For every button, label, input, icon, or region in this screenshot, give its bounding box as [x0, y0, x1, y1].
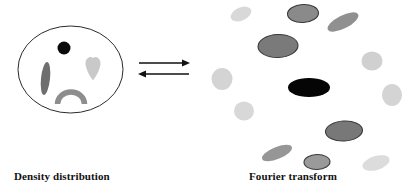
spot-light-left-2 [234, 102, 254, 121]
spot-light-left-1 [212, 68, 233, 90]
spot-large-dark [258, 34, 299, 58]
diagram-canvas [0, 0, 418, 193]
spot-light-right-1 [362, 52, 383, 71]
spot-dark-lr [325, 120, 363, 142]
reversible-transform-arrows [138, 59, 190, 77]
arrow-left-head [138, 70, 146, 77]
spot-mid-bottom [304, 154, 331, 170]
fourier-transform-label: Fourier transform [249, 170, 337, 182]
density-boundary-ellipse [18, 26, 123, 113]
density-distribution-label: Density distribution [14, 170, 110, 182]
fourier-transform-diagram: Density distribution Fourier transform [0, 0, 418, 193]
arrow-right-head [182, 59, 190, 66]
fourier-transform-panel [212, 4, 403, 174]
spot-light-tl [228, 4, 253, 25]
spot-black-center [288, 78, 330, 97]
spot-dark-tilt-tr [325, 8, 361, 35]
spot-mid-tilt-bl [260, 141, 294, 164]
spot-light-br [361, 152, 392, 174]
spot-mid-top [287, 4, 319, 24]
spot-light-right-2 [382, 84, 402, 106]
black-dot-feature [58, 42, 71, 55]
density-distribution-panel [18, 26, 123, 113]
